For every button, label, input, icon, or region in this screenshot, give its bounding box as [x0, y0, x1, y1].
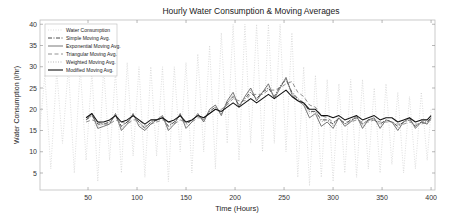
chart-title: Hourly Water Consumption & Moving Averag…: [162, 6, 339, 16]
x-tick-label: 150: [180, 194, 192, 201]
y-tick-label: 15: [29, 127, 37, 134]
y-axis-label: Water Consumption (l/hr): [13, 66, 21, 144]
legend-label: Triangular Moving Avg.: [66, 51, 117, 57]
y-tick-label: 35: [29, 42, 37, 49]
y-tick-label: 20: [29, 106, 37, 113]
legend-label: Simple Moving Avg.: [66, 35, 110, 41]
x-tick-label: 50: [84, 194, 92, 201]
x-tick-label: 300: [327, 194, 339, 201]
y-tick-label: 30: [29, 63, 37, 70]
y-tick-label: 5: [33, 170, 37, 177]
legend-label: Modified Moving Avg.: [66, 67, 113, 73]
chart: Hourly Water Consumption & Moving Averag…: [0, 0, 458, 217]
x-tick-label: 400: [425, 194, 437, 201]
y-tick-label: 40: [29, 21, 37, 28]
x-tick-label: 350: [376, 194, 388, 201]
x-tick-label: 100: [131, 194, 143, 201]
x-axis-label: Time (Hours): [215, 204, 259, 213]
y-tick-label: 25: [29, 85, 37, 92]
legend: Water ConsumptionSimple Moving Avg.Expon…: [45, 24, 121, 76]
legend-label: Exponential Moving Avg.: [66, 43, 121, 49]
x-tick-label: 200: [229, 194, 241, 201]
legend-label: Water Consumption: [66, 27, 110, 33]
x-tick-label: 250: [278, 194, 290, 201]
y-tick-label: 10: [29, 148, 37, 155]
legend-label: Weighted Moving Avg.: [66, 59, 116, 65]
